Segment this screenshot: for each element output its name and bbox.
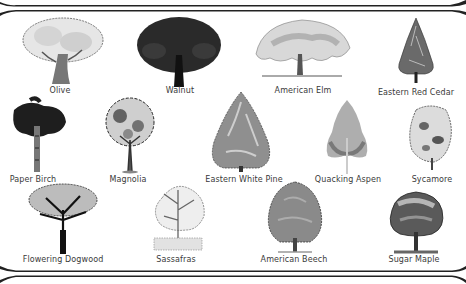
flowering-dogwood-tree-illustration: [26, 180, 100, 254]
sycamore-tree-illustration: [406, 102, 454, 172]
quacking-aspen-tree-illustration: [322, 98, 372, 174]
walnut-tree-illustration: [134, 15, 224, 87]
magnolia-tree-illustration: [102, 96, 158, 174]
tree-label-sassafras: Sassafras: [156, 255, 195, 264]
frame-lines-bottom: [0, 266, 466, 284]
tree-label-eastern-red-cedar: Eastern Red Cedar: [378, 88, 454, 97]
paper-birch-tree-illustration: [8, 96, 68, 174]
american-elm-tree-illustration: [252, 14, 352, 80]
tree-label-sugar-maple: Sugar Maple: [388, 255, 439, 264]
tree-label-flowering-dogwood: Flowering Dogwood: [23, 255, 104, 264]
tree-label-olive: Olive: [50, 86, 71, 95]
eastern-white-pine-tree-illustration: [206, 90, 276, 174]
sugar-maple-tree-illustration: [386, 190, 446, 256]
tree-label-american-elm: American Elm: [275, 86, 332, 95]
tree-label-sycamore: Sycamore: [412, 175, 453, 184]
tree-label-magnolia: Magnolia: [110, 175, 147, 184]
eastern-red-cedar-tree-illustration: [395, 16, 437, 84]
sassafras-tree-illustration: [148, 180, 208, 254]
olive-tree-illustration: [18, 14, 108, 86]
tree-label-walnut: Walnut: [166, 86, 194, 95]
tree-label-american-beech: American Beech: [261, 255, 328, 264]
american-beech-tree-illustration: [264, 180, 326, 256]
bottom-frame-band: [0, 266, 466, 284]
